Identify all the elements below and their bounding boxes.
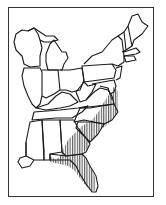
map-svg [0, 0, 166, 205]
range-map: Eastern United States range map [0, 0, 166, 205]
